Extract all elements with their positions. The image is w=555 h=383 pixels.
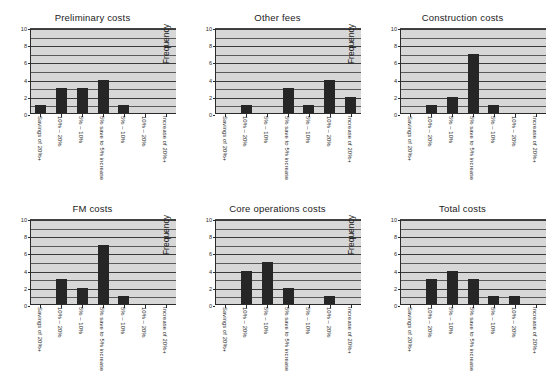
bar-series [30,220,176,305]
plot-background: 0246810 [400,28,546,114]
y-tick-label: 2 [24,95,27,101]
bar [468,279,479,305]
chart-panel: FM costsFrequency0246810Savings of 20%+1… [0,191,185,383]
y-tick-mark [28,63,30,64]
y-tick-mark [213,254,215,255]
chart-title: Total costs [370,203,555,214]
y-tick-mark [213,46,215,47]
x-tick-label: Savings of 20%+ [37,307,43,352]
x-tick-label: 5% – 10% [490,116,496,143]
y-tick-label: 8 [209,43,212,49]
x-axis-labels: Savings of 20%+10% – 20%5% – 10%5% save … [215,116,361,188]
x-axis-labels: Savings of 20%+10% – 20%5% – 10%5% save … [215,307,361,379]
y-axis-line [400,220,401,305]
y-tick-label: 0 [24,303,27,309]
y-tick-mark [398,98,400,99]
y-tick-label: 4 [209,269,212,275]
y-tick-mark [398,237,400,238]
bar-series [400,29,546,114]
y-tick-mark [28,29,30,30]
bar [262,262,273,305]
y-tick-label: 2 [209,95,212,101]
y-tick-mark [398,63,400,64]
y-axis-line [215,29,216,114]
bar-series [400,220,546,305]
bar [324,80,335,114]
y-tick-mark [28,81,30,82]
bar [56,279,67,305]
bar [447,97,458,114]
y-tick-label: 10 [21,217,27,223]
x-tick-label: Increase of 20%+ [532,307,538,354]
bar [241,271,252,305]
chart-title: Construction costs [370,12,555,23]
bar [283,288,294,305]
chart-panel: Total costsFrequency0246810Savings of 20… [370,191,555,383]
y-tick-mark [213,29,215,30]
x-tick-label: 10% – 20% [242,307,248,338]
x-tick-label: 5% save to 5% increase [99,116,105,180]
bar [283,88,294,114]
x-tick-label: 10% – 20% [242,116,248,147]
y-tick-mark [398,220,400,221]
chart-panel: Core operations costsFrequency0246810Sav… [185,191,370,383]
plot-area: 0246810 [400,219,546,305]
y-tick-mark [28,272,30,273]
bar [468,54,479,114]
y-tick-mark [28,220,30,221]
y-tick-label: 10 [206,217,212,223]
y-tick-mark [213,81,215,82]
x-tick-label: 5% save to 5% increase [469,116,475,180]
x-tick-label: Savings of 20%+ [222,116,228,161]
plot-area: 0246810 [400,28,546,114]
plot-area: 0246810 [30,219,176,305]
x-tick-label: 5% – 10% [263,307,269,334]
y-tick-label: 0 [24,112,27,118]
y-axis-line [215,220,216,305]
x-tick-label: 5% – 10% [305,116,311,143]
x-tick-label: 5% – 10% [490,307,496,334]
x-tick-label: 5% – 10% [120,307,126,334]
x-tick-label: Savings of 20%+ [407,116,413,161]
bar [77,88,88,114]
chart-title: FM costs [0,203,185,214]
y-axis-label: Frequency [161,10,171,78]
y-tick-label: 8 [209,234,212,240]
x-tick-label: Increase of 20%+ [162,116,168,163]
y-tick-label: 6 [24,60,27,66]
y-tick-label: 6 [394,60,397,66]
y-tick-label: 2 [24,286,27,292]
y-tick-label: 0 [209,303,212,309]
x-tick-label: Savings of 20%+ [222,307,228,352]
x-tick-label: Increase of 20%+ [162,307,168,354]
bar [345,97,356,114]
x-axis-labels: Savings of 20%+10% – 20%5% – 10%5% save … [30,116,176,188]
x-tick-label: Increase of 20%+ [347,116,353,163]
x-tick-label: Savings of 20%+ [37,116,43,161]
y-axis-line [400,29,401,114]
y-tick-label: 10 [391,26,397,32]
plot-background: 0246810 [30,28,176,114]
y-tick-mark [28,98,30,99]
x-tick-label: 5% – 10% [78,116,84,143]
plot-area: 0246810 [30,28,176,114]
y-axis-label: Frequency [346,201,356,269]
bar [56,88,67,114]
bar-series [215,220,361,305]
y-tick-mark [28,46,30,47]
y-tick-label: 8 [394,234,397,240]
x-tick-label: 5% – 10% [305,307,311,334]
x-tick-label: 10% – 20% [141,307,147,338]
plot-background: 0246810 [215,219,361,305]
plot-background: 0246810 [400,219,546,305]
plot-background: 0246810 [30,219,176,305]
y-tick-mark [213,289,215,290]
plot-area: 0246810 [215,219,361,305]
y-axis-line [30,220,31,305]
x-tick-label: 5% – 10% [448,116,454,143]
y-tick-mark [213,272,215,273]
x-tick-label: Savings of 20%+ [407,307,413,352]
y-axis-label: Frequency [161,201,171,269]
y-tick-label: 4 [394,269,397,275]
y-tick-label: 4 [24,269,27,275]
